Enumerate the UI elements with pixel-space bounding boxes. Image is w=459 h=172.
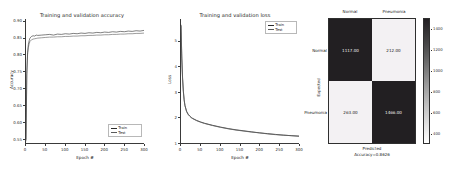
x-tickmark [45, 144, 46, 146]
colorbar-tickmark [431, 92, 432, 93]
x-tickmark [180, 144, 181, 146]
colorbar-tick-label: 1000 [433, 68, 451, 73]
y-tick-label: 0.65 [6, 103, 22, 108]
colorbar-tickmark [431, 29, 432, 30]
cm-cell-pneumonia-as-normal: 263.00 [329, 81, 372, 143]
x-tick-label: 250 [272, 147, 286, 152]
x-tick-label: 250 [117, 147, 131, 152]
colorbar-tickmark [431, 50, 432, 51]
colorbar-tick-label: 800 [433, 89, 451, 94]
y-tick-label: 1 [161, 141, 177, 146]
y-tick-label: 5 [161, 38, 177, 43]
loss-axes [180, 19, 299, 144]
confusion-matrix-grid: 1117.00 212.00 263.00 1466.00 [328, 18, 416, 144]
cm-cell-normal-as-pneumonia: 212.00 [372, 19, 415, 81]
colorbar-tick-label: 1200 [433, 47, 451, 52]
y-tickmark [178, 41, 180, 42]
y-tickmark [178, 66, 180, 67]
x-tickmark [299, 144, 300, 146]
cm-y-axis-label: Expected [316, 63, 321, 97]
x-tickmark [200, 144, 201, 146]
y-tick-label: 2 [161, 115, 177, 120]
accuracy-legend: Train Test [108, 124, 142, 137]
legend-label-test: Test [275, 28, 282, 32]
y-tick-label: 0.85 [6, 35, 22, 40]
loss-y-axis-label: Loss [167, 62, 172, 98]
legend-item-test: Test [111, 131, 139, 135]
x-tickmark [279, 144, 280, 146]
colorbar-tickmark [431, 134, 432, 135]
cm-column-label-pneumonia: Pneumonia [372, 9, 416, 14]
x-tickmark [104, 144, 105, 146]
x-tick-label: 50 [193, 147, 207, 152]
loss-plot-title: Training and validation loss [167, 12, 303, 18]
y-tickmark [23, 88, 25, 89]
loss-legend: Train Test [265, 21, 297, 34]
cm-row-label-normal: Normal [301, 48, 327, 53]
loss-x-axis-label: Epoch # [210, 155, 270, 160]
y-tickmark [23, 38, 25, 39]
y-tick-label: 0.60 [6, 120, 22, 125]
y-tickmark [23, 122, 25, 123]
x-tick-label: 200 [252, 147, 266, 152]
x-tickmark [259, 144, 260, 146]
cm-x-axis-label: Predicted [342, 146, 402, 151]
confusion-matrix-panel: Normal Pneumonia Normal Pneumonia Expect… [315, 0, 459, 172]
legend-label-test: Test [118, 131, 125, 135]
x-tickmark [144, 144, 145, 146]
y-tickmark [178, 117, 180, 118]
accuracy-plot-title: Training and validation accuracy [14, 12, 150, 18]
legend-swatch-test-icon [111, 132, 117, 133]
y-tick-label: 0.55 [6, 137, 22, 142]
colorbar-tickmark [431, 71, 432, 72]
x-tickmark [85, 144, 86, 146]
x-tickmark [65, 144, 66, 146]
x-tick-label: 0 [18, 147, 32, 152]
loss-plot-panel: Training and validation loss 12345 05010… [155, 0, 315, 172]
loss-curves [181, 19, 299, 143]
cm-cell-true-pneumonia: 1466.00 [372, 81, 415, 143]
cm-column-label-normal: Normal [328, 9, 372, 14]
cm-cell-true-normal: 1117.00 [329, 19, 372, 81]
x-tick-label: 150 [233, 147, 247, 152]
x-tick-label: 0 [173, 147, 187, 152]
y-tickmark [23, 105, 25, 106]
x-tick-label: 100 [213, 147, 227, 152]
y-tickmark [178, 92, 180, 93]
x-tickmark [240, 144, 241, 146]
matplotlib-figure: Training and validation accuracy 0.550.6… [0, 0, 459, 172]
legend-swatch-test-icon [268, 29, 274, 30]
x-tick-label: 150 [78, 147, 92, 152]
x-tick-label: 50 [38, 147, 52, 152]
y-tickmark [23, 54, 25, 55]
x-tick-label: 300 [137, 147, 151, 152]
legend-swatch-train-icon [268, 25, 274, 26]
cm-accuracy-caption: Accuracy=0.8626 [342, 152, 402, 157]
colorbar-tickmark [431, 113, 432, 114]
legend-swatch-train-icon [111, 128, 117, 129]
y-tick-label: 0.80 [6, 52, 22, 57]
colorbar-tick-label: 400 [433, 131, 451, 136]
x-tickmark [124, 144, 125, 146]
x-tick-label: 200 [97, 147, 111, 152]
x-tick-label: 100 [58, 147, 72, 152]
accuracy-y-axis-label: Accuracy [9, 62, 14, 98]
x-tickmark [220, 144, 221, 146]
accuracy-x-axis-label: Epoch # [55, 155, 115, 160]
x-tick-label: 300 [292, 147, 306, 152]
colorbar-tick-label: 1400 [433, 26, 451, 31]
accuracy-plot-panel: Training and validation accuracy 0.550.6… [0, 0, 155, 172]
y-tick-label: 0.90 [6, 18, 22, 23]
x-tickmark [25, 144, 26, 146]
cm-row-label-pneumonia: Pneumonia [298, 110, 327, 115]
y-tickmark [23, 71, 25, 72]
y-tickmark [23, 139, 25, 140]
colorbar [423, 18, 430, 144]
colorbar-tick-label: 600 [433, 110, 451, 115]
y-tickmark [23, 21, 25, 22]
legend-item-test: Test [268, 28, 294, 32]
